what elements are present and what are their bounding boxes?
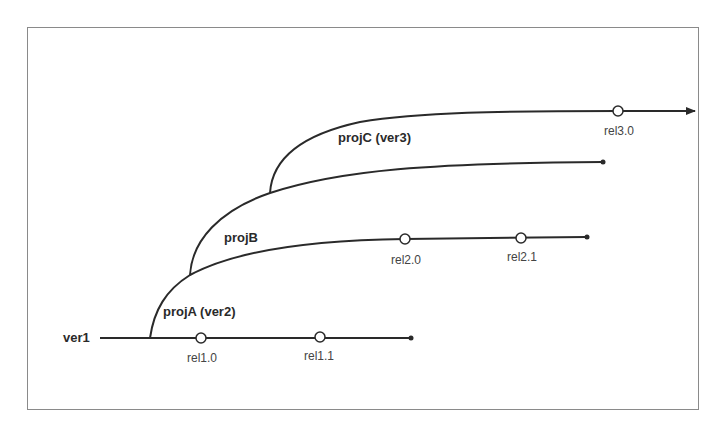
- branch-projB-label: projB: [224, 230, 258, 245]
- release-node-rel2-1: [516, 233, 526, 243]
- branch-projA-label: projA (ver2): [163, 304, 235, 319]
- branch-projA: projA (ver2) rel2.0 rel2.1: [150, 233, 590, 338]
- release-label-rel1-1: rel1.1: [304, 349, 334, 363]
- branch-projB-end-dot: [601, 160, 606, 165]
- release-label-rel1-0: rel1.0: [187, 351, 217, 365]
- release-node-rel1-0: [196, 333, 206, 343]
- trunk-end-dot: [409, 336, 414, 341]
- release-node-rel2-0: [400, 234, 410, 244]
- release-label-rel2-1: rel2.1: [507, 250, 537, 264]
- branch-projC: projC (ver3) rel3.0: [270, 106, 695, 193]
- release-node-rel3-0: [613, 106, 623, 116]
- branch-projC-label: projC (ver3): [338, 130, 411, 145]
- branch-projA-end-dot: [585, 235, 590, 240]
- release-label-rel3-0: rel3.0: [604, 124, 634, 138]
- release-node-rel1-1: [315, 332, 325, 342]
- trunk-ver1: ver1 rel1.0 rel1.1: [63, 330, 414, 365]
- version-tree-diagram: ver1 rel1.0 rel1.1 projA (ver2) rel2.0 r…: [0, 0, 725, 429]
- release-label-rel2-0: rel2.0: [391, 253, 421, 267]
- trunk-label: ver1: [63, 330, 90, 345]
